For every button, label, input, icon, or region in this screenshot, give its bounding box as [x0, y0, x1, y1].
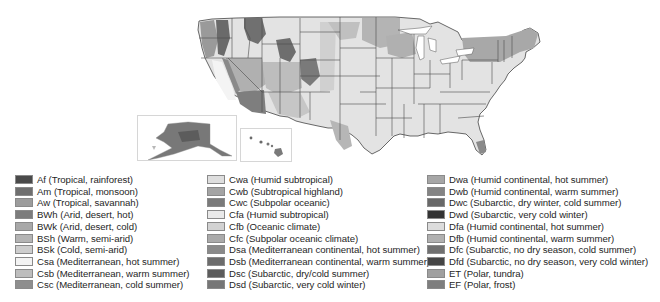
legend-label: Cfc (Subpolar oceanic climate) — [229, 233, 358, 244]
legend-label: BSh (Warm, semi-arid) — [37, 233, 133, 244]
legend-swatch — [15, 234, 33, 243]
legend-swatch — [427, 280, 445, 289]
legend-item-dsc: Dsc (Subarctic, dry/cold summer) — [207, 268, 369, 279]
legend-label: Dwc (Subarctic, dry winter, cold summer) — [449, 197, 621, 208]
legend-label: Csa (Mediterranean, hot summer) — [37, 256, 179, 267]
legend-swatch — [427, 245, 445, 254]
legend-item-dwc: Dwc (Subarctic, dry winter, cold summer) — [427, 197, 621, 208]
legend-item-dsd: Dsd (Subarctic, very cold winter) — [207, 279, 365, 290]
legend-swatch — [427, 210, 445, 219]
legend-label: BWh (Arid, desert, hot) — [37, 209, 133, 220]
legend-label: Cfb (Oceanic climate) — [229, 221, 320, 232]
legend-swatch — [427, 222, 445, 231]
legend-item-csb: Csb (Mediterranean, warm summer) — [15, 268, 189, 279]
legend-item-cfa: Cfa (Humid subtropical) — [207, 209, 329, 220]
legend-label: Dwb (Humid continental, warm summer) — [449, 186, 618, 197]
legend-swatch — [207, 234, 225, 243]
legend-label: Am (Tropical, monsoon) — [37, 186, 138, 197]
alaska-inset — [137, 115, 237, 161]
legend-item-cfc: Cfc (Subpolar oceanic climate) — [207, 233, 358, 244]
legend-item-am: Am (Tropical, monsoon) — [15, 186, 138, 197]
legend-item-dwa: Dwa (Humid continental, hot summer) — [427, 174, 608, 185]
legend-item-bwh: BWh (Arid, desert, hot) — [15, 209, 133, 220]
legend-item-dfb: Dfb (Humid continental, warm summer) — [427, 233, 614, 244]
legend-swatch — [15, 187, 33, 196]
legend-swatch — [207, 222, 225, 231]
legend-swatch — [15, 280, 33, 289]
legend-item-af: Af (Tropical, rainforest) — [15, 174, 133, 185]
legend-swatch — [427, 187, 445, 196]
legend-swatch — [207, 198, 225, 207]
legend-swatch — [15, 257, 33, 266]
legend-label: Dfd (Subarctic, no dry season, very cold… — [449, 256, 648, 267]
legend-item-et: ET (Polar, tundra) — [427, 268, 524, 279]
legend-item-dwd: Dwd (Subarctic, very cold winter) — [427, 209, 588, 220]
legend-item-dfd: Dfd (Subarctic, no dry season, very cold… — [427, 256, 648, 267]
legend-label: Cfa (Humid subtropical) — [229, 209, 329, 220]
legend-swatch — [207, 280, 225, 289]
legend-item-cwa: Cwa (Humid subtropical) — [207, 174, 333, 185]
legend-item-csc: Csc (Mediterranean, cold summer) — [15, 279, 183, 290]
legend-swatch — [207, 269, 225, 278]
legend-label: Dfa (Humid continental, hot summer) — [449, 221, 604, 232]
legend-swatch — [427, 269, 445, 278]
legend-column-3: Dwa (Humid continental, hot summer) Dwb … — [427, 174, 660, 294]
legend-item-bwk: BWk (Arid, desert, cold) — [15, 221, 137, 232]
legend-item-bsk: BSk (Cold, semi-arid) — [15, 244, 127, 255]
legend-label: Dfc (Subarctic, no dry season, cold summ… — [449, 244, 636, 255]
legend-swatch — [15, 269, 33, 278]
legend-swatch — [427, 257, 445, 266]
legend-column-2: Cwa (Humid subtropical) Cwb (Subtropical… — [207, 174, 422, 294]
legend-item-bsh: BSh (Warm, semi-arid) — [15, 233, 133, 244]
legend-swatch — [207, 187, 225, 196]
legend-swatch — [15, 175, 33, 184]
legend-column-1: Af (Tropical, rainforest) Am (Tropical, … — [15, 174, 215, 294]
legend-swatch — [427, 234, 445, 243]
legend-label: Af (Tropical, rainforest) — [37, 174, 133, 185]
legend-item-dfc: Dfc (Subarctic, no dry season, cold summ… — [427, 244, 636, 255]
legend-swatch — [207, 175, 225, 184]
legend-swatch — [15, 222, 33, 231]
legend-swatch — [15, 245, 33, 254]
legend-label: Dsa (Mediterranean continental, hot summ… — [229, 244, 420, 255]
hawaii-inset — [240, 128, 292, 162]
legend-item-dfa: Dfa (Humid continental, hot summer) — [427, 221, 604, 232]
contiguous-us-map — [0, 0, 660, 170]
legend-swatch — [207, 210, 225, 219]
alaska-map — [138, 116, 236, 160]
legend-label: Dsb (Mediterranean continental, warm sum… — [229, 256, 430, 267]
climate-map — [0, 0, 660, 170]
legend-swatch — [15, 210, 33, 219]
legend-swatch — [15, 198, 33, 207]
legend-label: Cwb (Subtropical highland) — [229, 186, 343, 197]
legend-label: Dfb (Humid continental, warm summer) — [449, 233, 614, 244]
legend-item-dwb: Dwb (Humid continental, warm summer) — [427, 186, 618, 197]
legend-swatch — [207, 257, 225, 266]
legend-item-cwb: Cwb (Subtropical highland) — [207, 186, 343, 197]
legend-item-cfb: Cfb (Oceanic climate) — [207, 221, 320, 232]
legend-swatch — [427, 198, 445, 207]
legend-swatch — [427, 175, 445, 184]
legend-label: Dsc (Subarctic, dry/cold summer) — [229, 268, 369, 279]
legend-label: Aw (Tropical, savannah) — [37, 197, 139, 208]
legend-item-ef: EF (Polar, frost) — [427, 279, 515, 290]
legend-item-aw: Aw (Tropical, savannah) — [15, 197, 139, 208]
legend-item-csa: Csa (Mediterranean, hot summer) — [15, 256, 179, 267]
legend-label: BWk (Arid, desert, cold) — [37, 221, 137, 232]
legend-label: Cwa (Humid subtropical) — [229, 174, 333, 185]
legend-label: BSk (Cold, semi-arid) — [37, 244, 127, 255]
legend-label: Csb (Mediterranean, warm summer) — [37, 268, 189, 279]
legend-item-cwc: Cwc (Subpolar oceanic) — [207, 197, 330, 208]
legend-label: Dsd (Subarctic, very cold winter) — [229, 279, 365, 290]
legend-label: Cwc (Subpolar oceanic) — [229, 197, 330, 208]
legend-label: Dwd (Subarctic, very cold winter) — [449, 209, 588, 220]
legend-swatch — [207, 245, 225, 254]
legend-label: ET (Polar, tundra) — [449, 268, 524, 279]
hawaii-map — [241, 129, 291, 161]
legend-item-dsb: Dsb (Mediterranean continental, warm sum… — [207, 256, 430, 267]
legend-label: EF (Polar, frost) — [449, 279, 515, 290]
legend-label: Dwa (Humid continental, hot summer) — [449, 174, 608, 185]
legend-item-dsa: Dsa (Mediterranean continental, hot summ… — [207, 244, 420, 255]
legend-label: Csc (Mediterranean, cold summer) — [37, 279, 183, 290]
